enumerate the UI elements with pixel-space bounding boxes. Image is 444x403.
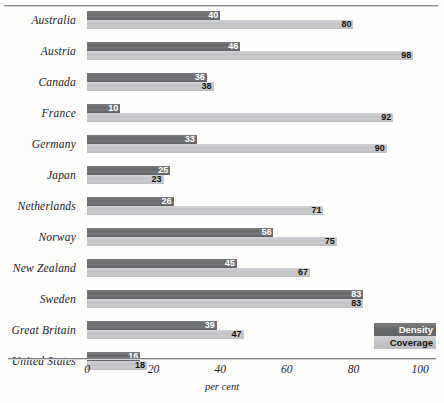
bar-coverage: 98: [87, 51, 413, 60]
bar-density: 83: [87, 290, 363, 299]
x-tick-label: 80: [333, 363, 373, 375]
bar-density: 36: [87, 73, 207, 82]
category-label: Great Britain: [0, 324, 76, 336]
category-label: Netherlands: [0, 200, 76, 212]
category-label: Germany: [0, 138, 76, 150]
bar-value-label: 90: [375, 143, 385, 154]
chart-row: Netherlands2671: [0, 194, 444, 225]
bar-group: 4567: [87, 256, 444, 287]
bar-group: 2671: [87, 194, 444, 225]
category-label: Canada: [0, 76, 76, 88]
bar-value-label: 47: [231, 329, 241, 340]
x-tick-label: 20: [134, 363, 174, 375]
bar-value-label: 80: [341, 19, 351, 30]
chart-row: Canada3638: [0, 70, 444, 101]
category-label: Norway: [0, 231, 76, 243]
bar-value-label: 38: [202, 81, 212, 92]
chart-row: Germany3390: [0, 132, 444, 163]
legend-label-coverage: Coverage: [390, 336, 433, 349]
bar-coverage: 38: [87, 82, 214, 91]
chart-row: France1092: [0, 101, 444, 132]
bar-density: 45: [87, 259, 237, 268]
bar-density: 46: [87, 42, 240, 51]
bar-coverage: 90: [87, 144, 387, 153]
legend-item-coverage: Coverage: [374, 336, 436, 349]
bar-coverage: 71: [87, 206, 323, 215]
bar-density: 39: [87, 321, 217, 330]
category-label: Austria: [0, 45, 76, 57]
bar-density: 56: [87, 228, 273, 237]
page-top-rule-shadow: [4, 6, 438, 7]
x-tick-label: 40: [200, 363, 240, 375]
bar-value-label: 67: [298, 267, 308, 278]
bar-value-label: 92: [381, 112, 391, 123]
category-label: France: [0, 107, 76, 119]
category-label: United States: [0, 355, 76, 367]
bar-density: 40: [87, 11, 220, 20]
bar-value-label: 71: [311, 205, 321, 216]
chart-legend: Density Coverage: [374, 323, 436, 349]
category-label: Sweden: [0, 293, 76, 305]
category-label: New Zealand: [0, 262, 76, 274]
bar-coverage: 80: [87, 20, 353, 29]
chart-row: New Zealand4567: [0, 256, 444, 287]
chart-row: Japan2523: [0, 163, 444, 194]
bar-coverage: 67: [87, 268, 310, 277]
x-tick-label: 0: [67, 363, 107, 375]
x-tick-label: 100: [400, 363, 440, 375]
bar-group: 2523: [87, 163, 444, 194]
bar-group: 3390: [87, 132, 444, 163]
legend-item-density: Density: [374, 323, 436, 336]
bar-coverage: 47: [87, 330, 244, 339]
bar-value-label: 98: [401, 50, 411, 61]
category-label: Australia: [0, 14, 76, 26]
bar-group: 4080: [87, 8, 444, 39]
bar-coverage: 83: [87, 299, 363, 308]
category-label: Japan: [0, 169, 76, 181]
bar-value-label: 75: [325, 236, 335, 247]
bar-value-label: 23: [152, 174, 162, 185]
chart-row: Sweden8383: [0, 287, 444, 318]
x-axis-line-shadow: [8, 359, 436, 360]
x-tick-label: 60: [267, 363, 307, 375]
bar-group: 3638: [87, 70, 444, 101]
legend-label-density: Density: [399, 323, 433, 336]
bar-density: 33: [87, 135, 197, 144]
bar-group: 5675: [87, 225, 444, 256]
bar-value-label: 83: [351, 298, 361, 309]
chart-row: Austria4698: [0, 39, 444, 70]
bar-density: 10: [87, 104, 120, 113]
bar-coverage: 92: [87, 113, 393, 122]
bar-coverage: 23: [87, 175, 164, 184]
bar-group: 8383: [87, 287, 444, 318]
bar-density: 26: [87, 197, 174, 206]
bar-group: 1092: [87, 101, 444, 132]
plot-area: Australia4080Austria4698Canada3638France…: [0, 8, 444, 356]
chart-row: Australia4080: [0, 8, 444, 39]
chart-figure: Australia4080Austria4698Canada3638France…: [0, 0, 444, 403]
x-axis-title: per cent: [0, 381, 444, 392]
chart-row: Norway5675: [0, 225, 444, 256]
bar-group: 4698: [87, 39, 444, 70]
bar-coverage: 75: [87, 237, 337, 246]
